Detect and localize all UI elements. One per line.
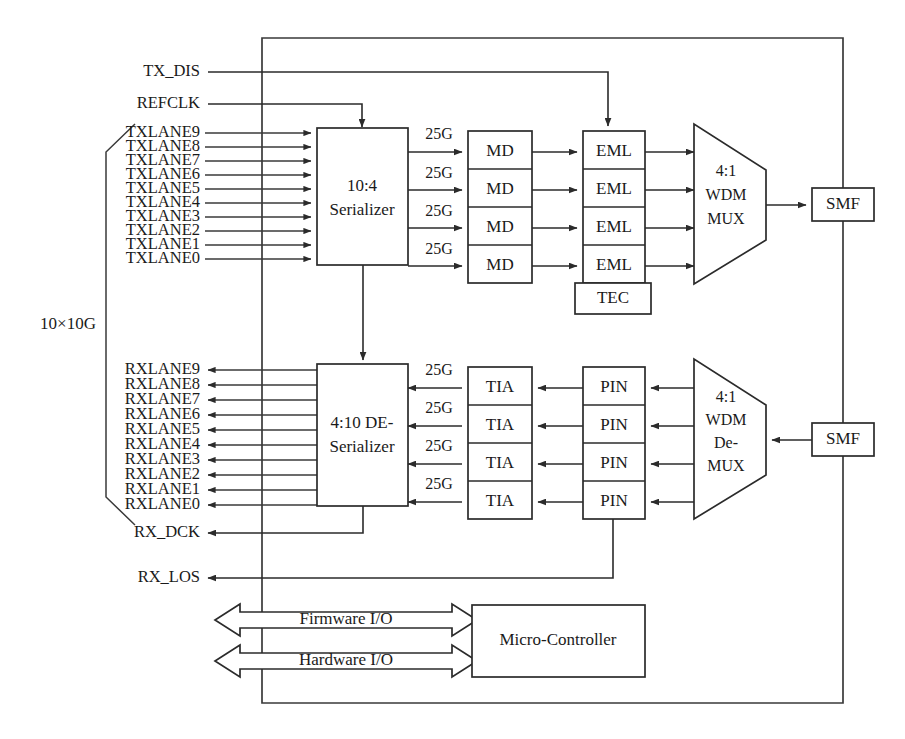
md-block-column: MD MD MD MD: [468, 131, 532, 283]
demux-de-label: De-: [714, 434, 738, 451]
md-block-label: MD: [486, 141, 513, 160]
firmware-io-label: Firmware I/O: [299, 609, 392, 628]
lane-group-label: 10×10G: [40, 314, 96, 333]
demux-name-label: MUX: [707, 457, 745, 474]
tia-block-label: TIA: [486, 377, 515, 396]
eml-block-column: EML EML EML EML: [583, 131, 645, 283]
md-block-label: MD: [486, 217, 513, 236]
signal-label-refclk: REFCLK: [137, 93, 200, 112]
pin-block-label: PIN: [600, 491, 627, 510]
eml-mux-links: [645, 152, 694, 266]
md-eml-links: [532, 152, 577, 266]
serializer-block: 10:4 Serializer: [317, 128, 408, 265]
md-block-label: MD: [486, 179, 513, 198]
eml-block-label: EML: [596, 141, 632, 160]
rx-rate-label: 25G: [425, 361, 453, 378]
pin-tia-links: [538, 388, 583, 502]
pin-block-label: PIN: [600, 377, 627, 396]
tx-rate-label: 25G: [425, 240, 453, 257]
rx-lane-label: RXLANE0: [125, 494, 200, 513]
demux-pin-links: [651, 388, 694, 502]
rx-lane-outputs: RXLANE9 RXLANE8 RXLANE7 RXLANE6 RXLANE5 …: [125, 359, 317, 513]
serializer-name-label: Serializer: [329, 200, 394, 219]
pin-block-label: PIN: [600, 415, 627, 434]
rx-25g-lines: 25G 25G 25G 25G: [408, 361, 462, 502]
tec-block: TEC: [575, 283, 651, 314]
mux-name-label: MUX: [707, 210, 745, 227]
eml-block-label: EML: [596, 179, 632, 198]
tx-rate-label: 25G: [425, 125, 453, 142]
signal-label-rx-dck: RX_DCK: [134, 522, 200, 541]
pin-block-label: PIN: [600, 453, 627, 472]
signal-label-tx-dis: TX_DIS: [143, 61, 200, 80]
mux-type-label: WDM: [706, 186, 747, 203]
smf-rx-label: SMF: [826, 429, 860, 448]
demux-ratio-label: 4:1: [716, 388, 736, 405]
signal-label-rx-los: RX_LOS: [138, 567, 200, 586]
tia-block-column: TIA TIA TIA TIA: [468, 367, 532, 519]
mux-ratio-label: 4:1: [716, 162, 736, 179]
tx-lane-label: TXLANE0: [126, 248, 200, 267]
smf-rx-block: SMF: [812, 423, 874, 456]
eml-block-label: EML: [596, 217, 632, 236]
tia-block-label: TIA: [486, 491, 515, 510]
wdm-demux-block: 4:1 WDM De- MUX: [694, 359, 766, 519]
tia-block-label: TIA: [486, 453, 515, 472]
firmware-io-bus: Firmware I/O: [215, 604, 477, 636]
tx-25g-lines: 25G 25G 25G 25G: [408, 125, 462, 266]
tx-lane-inputs: TXLANE9 TXLANE8 TXLANE7 TXLANE6 TXLANE5 …: [126, 122, 311, 267]
tx-rate-label: 25G: [425, 164, 453, 181]
rx-rate-label: 25G: [425, 437, 453, 454]
demux-type-label: WDM: [706, 411, 747, 428]
tia-block-label: TIA: [486, 415, 515, 434]
deserializer-block: 4:10 DE- Serializer: [317, 364, 408, 506]
signal-rx-los: RX_LOS: [138, 506, 613, 586]
microcontroller-block: Micro-Controller: [472, 605, 645, 677]
eml-block-label: EML: [596, 255, 632, 274]
transceiver-block-diagram: 10×10G TX_DIS REFCLK TXLANE9 TXLANE8 TXL…: [0, 0, 905, 739]
signal-tx-dis: TX_DIS: [143, 61, 608, 126]
deserializer-name-label: Serializer: [329, 437, 394, 456]
diagram-canvas: 10×10G TX_DIS REFCLK TXLANE9 TXLANE8 TXL…: [0, 0, 905, 739]
md-block-label: MD: [486, 255, 513, 274]
tec-block-label: TEC: [597, 288, 629, 307]
deserializer-ratio-label: 4:10 DE-: [331, 413, 394, 432]
smf-tx-label: SMF: [826, 194, 860, 213]
microcontroller-label: Micro-Controller: [499, 630, 616, 649]
rx-rate-label: 25G: [425, 475, 453, 492]
smf-tx-block: SMF: [812, 188, 874, 221]
rx-rate-label: 25G: [425, 399, 453, 416]
serializer-ratio-label: 10:4: [347, 176, 378, 195]
pin-block-column: PIN PIN PIN PIN: [583, 367, 645, 519]
tx-rate-label: 25G: [425, 202, 453, 219]
hardware-io-label: Hardware I/O: [299, 650, 393, 669]
hardware-io-bus: Hardware I/O: [215, 645, 477, 677]
wdm-mux-block: 4:1 WDM MUX: [694, 124, 766, 284]
